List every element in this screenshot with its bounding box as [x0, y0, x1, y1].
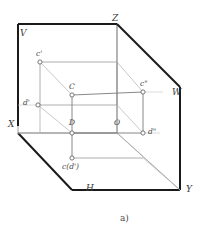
point-marker-d-prime [36, 103, 40, 107]
point-marker-c-prime [38, 60, 42, 64]
box-depth-edge-d-right [117, 105, 143, 133]
point-label-c: C [69, 83, 75, 91]
wireframe-box-group [18, 62, 180, 190]
plane-label-w: W [172, 88, 181, 97]
box-depth-edge-d [38, 105, 72, 133]
zw-plane-edge [117, 24, 180, 87]
projection-planes-group [18, 24, 180, 190]
point-marker-C [70, 93, 74, 97]
box-top-front-edge [72, 92, 143, 95]
plane-label-v: V [20, 29, 27, 38]
point-label-d: D [69, 119, 75, 127]
point-label-c-prime: c' [36, 50, 42, 58]
figure-caption: a) [120, 214, 129, 223]
point-label-o: O [114, 119, 120, 127]
projector-base-diagonal [143, 158, 180, 190]
box-depth-edge-c [40, 62, 72, 95]
axis-label-y: Y [186, 185, 192, 194]
point-marker-c-double-prime [141, 90, 145, 94]
point-label-c-double-prime: c" [140, 80, 148, 88]
point-label-d-double-prime: d" [148, 128, 156, 136]
figure-drawing-canvas [0, 0, 199, 236]
axis-label-x: X [8, 120, 14, 129]
point-label-d-prime: d' [23, 99, 30, 107]
descriptive-geometry-figure: V H W X Y Z c' C c" d' D O d" c(d') a) [0, 0, 199, 236]
point-marker-d-double-prime [141, 131, 145, 135]
plane-label-h: H [86, 184, 94, 193]
axis-label-z: Z [112, 14, 118, 23]
point-label-c-d-prime: c(d') [62, 163, 79, 171]
point-marker-c-d-prime [70, 156, 74, 160]
v-plane-outline [18, 24, 117, 133]
point-marker-D [70, 131, 74, 135]
